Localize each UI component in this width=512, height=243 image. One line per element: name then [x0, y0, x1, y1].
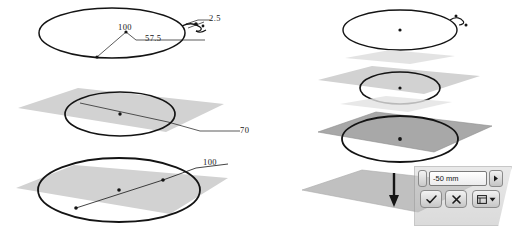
right-profile-pt-2: [465, 24, 468, 27]
chevron-down-icon: [489, 197, 496, 202]
options-button[interactable]: [472, 190, 500, 208]
close-icon: [452, 195, 461, 204]
right-plane-light-shadow: [340, 96, 452, 112]
offset-distance-toolbar[interactable]: -50 mm: [418, 170, 506, 220]
bottom-left-plane-view: [16, 158, 228, 222]
circle-center-point-2: [117, 188, 121, 192]
construction-plane-light-2: [16, 165, 228, 214]
right-view-plane-light: [318, 66, 480, 112]
dim-label-70: 70: [240, 125, 249, 135]
chevron-right-icon[interactable]: [489, 170, 503, 187]
cancel-button[interactable]: [445, 190, 467, 208]
dim-label-57-5: 57.5: [145, 33, 161, 43]
right-view-profile: [343, 10, 468, 64]
dim-label-100-bottom: 100: [203, 157, 217, 167]
distance-value: -50 mm: [433, 174, 458, 183]
top-left-profile: [39, 8, 210, 59]
middle-left-plane-view: [18, 88, 240, 136]
check-icon: [426, 195, 437, 204]
leader-100: [97, 32, 126, 57]
right-circle-light-center: [398, 86, 401, 89]
right-profile-center: [398, 28, 401, 31]
right-plane-light: [318, 66, 480, 94]
profile-ellipse-outline: [39, 8, 185, 58]
spinner-icon[interactable]: [418, 170, 427, 187]
list-options-icon: [477, 195, 487, 204]
dim-point-d: [202, 25, 205, 28]
circle-center-point: [118, 112, 121, 115]
right-profile-shadow: [345, 50, 455, 64]
dim-point-a: [95, 55, 98, 58]
dim-label-100-top: 100: [118, 22, 132, 32]
dim-point-c: [194, 22, 198, 26]
right-view-plane-selected: [318, 112, 492, 162]
ok-button[interactable]: [420, 190, 442, 208]
construction-plane-light: [18, 88, 224, 132]
distance-input[interactable]: -50 mm: [429, 171, 487, 186]
confirm-row: [420, 190, 500, 208]
dim-label-2-5: 2.5: [209, 13, 221, 23]
right-profile-pt-1: [455, 15, 458, 18]
right-circle-dark-center: [398, 137, 402, 141]
distance-row: -50 mm: [418, 170, 503, 187]
chevron-right-glyph: [493, 175, 499, 182]
leader-57-5: [126, 32, 205, 40]
